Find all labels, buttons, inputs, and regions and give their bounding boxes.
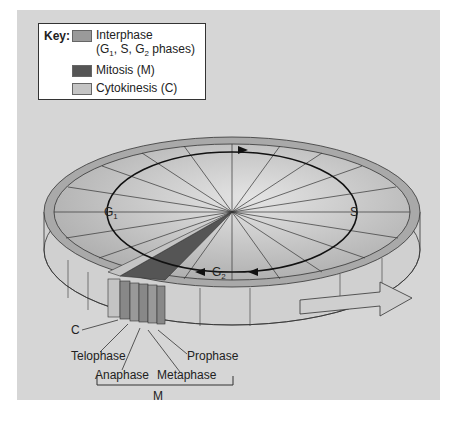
interphase-label: Interphase: [96, 28, 153, 42]
s-label: S: [350, 205, 358, 219]
cytokinesis-swatch: [72, 83, 92, 95]
metaphase-label: Metaphase: [157, 368, 216, 382]
legend: Key: Interphase (G1, S, G2 phases) Mitos…: [38, 23, 206, 100]
cytokinesis-stage-label: C: [71, 323, 80, 337]
anaphase-label: Anaphase: [95, 368, 149, 382]
mitosis-group-label: M: [153, 389, 163, 403]
mitosis-label: Mitosis (M): [96, 63, 155, 77]
mitosis-swatch: [72, 65, 92, 77]
interphase-sublabel: (G1, S, G2 phases): [96, 42, 195, 61]
interphase-swatch: [72, 30, 92, 42]
cytokinesis-label: Cytokinesis (C): [96, 81, 177, 95]
legend-title: Key:: [44, 29, 70, 43]
telophase-label: Telophase: [71, 349, 126, 363]
g2-label: G2: [212, 265, 226, 281]
prophase-label: Prophase: [187, 349, 238, 363]
g1-label: G1: [104, 205, 118, 221]
